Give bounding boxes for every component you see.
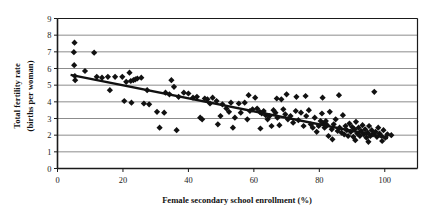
chart-background bbox=[0, 0, 440, 212]
x-tick-label-0: 0 bbox=[55, 176, 59, 185]
y-tick-label-1: 1 bbox=[47, 148, 51, 157]
x-tick-label-40: 40 bbox=[184, 176, 192, 185]
y-axis-title-line1: Total fertility rate bbox=[12, 63, 22, 129]
x-tick-label-20: 20 bbox=[119, 176, 127, 185]
y-tick-label-8: 8 bbox=[47, 31, 51, 40]
y-tick-label-5: 5 bbox=[47, 81, 51, 90]
x-axis-title: Female secondary school enrollment (%) bbox=[162, 195, 312, 205]
x-tick-label-60: 60 bbox=[250, 176, 258, 185]
y-tick-label-9: 9 bbox=[47, 15, 51, 24]
x-tick-label-80: 80 bbox=[315, 176, 323, 185]
y-tick-label-7: 7 bbox=[47, 48, 51, 57]
chart-figure: 0123456789 020406080100 Total fertility … bbox=[0, 0, 440, 212]
scatter-chart: 0123456789 020406080100 Total fertility … bbox=[0, 0, 440, 212]
y-tick-label-0: 0 bbox=[47, 165, 51, 174]
y-tick-label-2: 2 bbox=[47, 131, 51, 140]
y-tick-label-6: 6 bbox=[47, 65, 51, 74]
y-tick-label-3: 3 bbox=[47, 115, 51, 124]
y-axis-title-line2: (births per woman) bbox=[25, 60, 35, 131]
x-tick-label-100: 100 bbox=[378, 176, 391, 185]
